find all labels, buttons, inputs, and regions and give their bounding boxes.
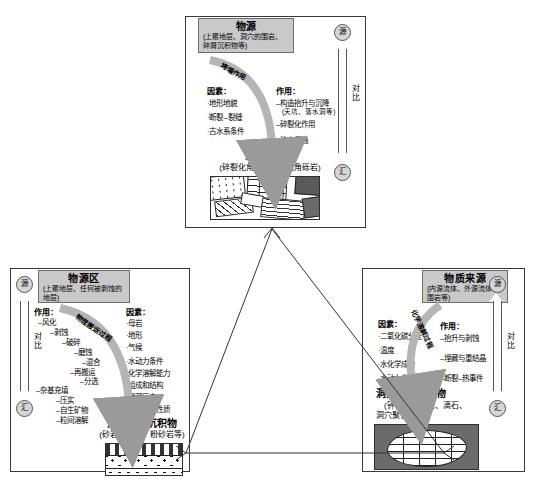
left-effect-4: –混合: [82, 358, 100, 367]
left-effect-5: –再搬运: [70, 368, 95, 377]
left-source-sink-axis: 源 汇 对比: [16, 276, 44, 416]
left-effect-2: –破碎: [62, 338, 80, 347]
left-product-sub: (砂岩、泥岩、粉砂岩等): [92, 430, 192, 440]
sediment-layer-laminated: [106, 444, 182, 455]
right-effect-1: –埋藏与重结晶: [440, 354, 486, 363]
top-factor-1: ·断裂–裂缝: [207, 113, 242, 122]
top-axis-source-node: 源: [334, 24, 351, 41]
top-panel-subtitle: (上覆地层、洞穴的围岩、碎屑沉积物等): [203, 33, 289, 50]
left-factor-2: ·气候: [126, 343, 143, 352]
top-axis-compare-label: 对比: [351, 84, 361, 102]
right-product-sub1: (钟乳石、流石、滴石、: [384, 401, 494, 411]
left-effect2-2: –自生矿物: [56, 406, 88, 415]
right-axis-shaft: [493, 301, 502, 391]
top-effect-1: –碎裂化作用: [276, 120, 315, 129]
clast-dark: [294, 176, 320, 196]
right-factor-2: ·水化学成分: [378, 360, 416, 369]
top-effect-2: –流水侵蚀: [276, 136, 308, 145]
left-product-title: 洞穴机械沉积物: [96, 418, 188, 430]
top-axis-arrow-down: [334, 153, 348, 162]
left-axis-shaft: [20, 301, 29, 391]
right-factors-header: 因素：: [378, 318, 402, 329]
chemical-fill-illustration: [374, 424, 479, 470]
left-factor-5: ·组成和结构: [126, 381, 164, 390]
left-effect2-1: –压实: [56, 396, 74, 405]
left-factor-6: ·埋藏历史: [126, 393, 157, 402]
left-effect-1: –剥蚀: [50, 328, 68, 337]
sediment-layer-fine: [106, 469, 182, 476]
top-effects-header: 作用：: [276, 85, 300, 96]
top-source-sink-axis: 源 汇 对比: [334, 24, 362, 180]
top-product-title: 洞穴角砾岩: [200, 150, 340, 162]
right-factor-3: ·水动力参数: [378, 374, 416, 383]
clast-small-dark: [302, 195, 320, 218]
left-effect-3: –磨蚀: [74, 348, 92, 357]
right-source-sink-axis: 源 汇 对比: [489, 276, 517, 416]
top-axis-sink-node: 汇: [334, 164, 351, 181]
clast-wavy: [260, 197, 306, 220]
left-axis-arrow-down: [16, 391, 30, 400]
left-factor-7: ·流体化学性质: [126, 405, 171, 414]
top-effect-sub: (天坑、落水洞等): [282, 108, 335, 116]
left-factors-header: 因素：: [126, 306, 150, 317]
right-axis-source-node: 源: [489, 276, 506, 293]
diagram-canvas: 物源 (上覆地层、洞穴的围岩、碎屑沉积物等) 因素： ·地形地貌 ·断裂–裂缝 …: [0, 0, 536, 482]
right-axis-sink-node: 汇: [489, 400, 506, 417]
top-factor-0: ·地形地貌: [207, 99, 238, 108]
top-product-sub: (碎裂化角砾岩、杂乱角砾岩): [196, 163, 344, 173]
right-product-title: 洞穴化学充填物: [376, 388, 486, 400]
left-factor-3: ·水动力条件: [126, 357, 164, 366]
left-effect-6: –分选: [80, 377, 98, 386]
right-effect-2: –断裂–热事件: [440, 374, 483, 383]
left-factor-0: ·母岩: [126, 319, 143, 328]
right-factor-0: ·二氧化碳分压: [378, 332, 423, 341]
speleothem-blob: [387, 430, 467, 467]
sediment-layer-coarse: [106, 456, 182, 468]
left-panel-title: 物源区: [43, 273, 125, 285]
left-panel-title-box: 物源区 (上覆地层、任何被剥蚀的地层): [38, 270, 130, 303]
right-factor-1: ·温度: [378, 346, 395, 355]
top-panel-title-box: 物源 (上覆地层、洞穴的围岩、碎屑沉积物等): [198, 18, 294, 53]
right-product-sub2: 洞穴聚合物等): [376, 411, 486, 421]
breccia-illustration: [210, 176, 320, 220]
top-factor-2: ·古水系条件: [207, 127, 245, 136]
top-vertex-chevron: [264, 228, 280, 238]
left-factor-4: ·化学溶解能力: [126, 369, 171, 378]
top-effect-0: –构造抬升与沉降: [276, 99, 329, 108]
right-axis-compare-label: 对比: [506, 332, 516, 350]
right-effect-0: –抬升与剥蚀: [440, 334, 479, 343]
left-panel-subtitle: (上覆地层、任何被剥蚀的地层): [43, 285, 125, 302]
left-axis-source-node: 源: [16, 276, 33, 293]
left-effect2-3: –粒间溶解: [56, 416, 88, 425]
top-factors-header: 因素：: [207, 85, 231, 96]
left-factor-1: ·地形: [126, 331, 143, 340]
top-panel-title: 物源: [203, 21, 289, 33]
left-axis-compare-label: 对比: [33, 332, 43, 350]
right-axis-arrow-down: [489, 391, 503, 400]
mechanical-sediment-illustration: [105, 443, 183, 476]
left-axis-sink-node: 汇: [16, 400, 33, 417]
top-axis-shaft: [338, 49, 347, 153]
right-effects-header: 作用：: [440, 320, 464, 331]
